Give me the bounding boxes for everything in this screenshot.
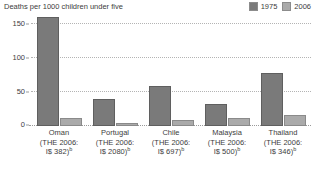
plot-area	[31, 17, 311, 126]
x-label-thailand-amount: I$ 346)b	[255, 147, 311, 157]
x-label-thailand-the: (THE 2006:	[255, 138, 311, 148]
bar-group-thailand	[255, 17, 311, 126]
bar-groups	[31, 17, 311, 126]
y-tick-150	[26, 24, 29, 25]
x-label-malaysia-amount-text: I$ 500)	[214, 147, 237, 156]
x-label-chile-amount: I$ 697)b	[143, 147, 199, 157]
bar-group-malaysia	[199, 17, 255, 126]
x-axis-labels: Oman (THE 2006: I$ 382)b Portugal (THE 2…	[31, 128, 311, 177]
bar-chile-1975[interactable]	[149, 86, 171, 126]
legend-item-2006[interactable]: 2006	[282, 2, 311, 11]
y-axis: 150 100 50 0	[0, 17, 29, 126]
bar-chile-2006[interactable]	[172, 120, 194, 126]
legend-swatch-1975	[249, 2, 258, 11]
legend-item-1975[interactable]: 1975	[249, 2, 278, 11]
x-label-oman-name: Oman	[31, 128, 87, 138]
x-label-portugal-the: (THE 2006:	[87, 138, 143, 148]
x-label-malaysia: Malaysia (THE 2006: I$ 500)b	[199, 128, 255, 177]
x-label-chile-amount-text: I$ 697)	[158, 147, 181, 156]
bar-thailand-2006[interactable]	[284, 115, 306, 126]
x-label-thailand-name: Thailand	[255, 128, 311, 138]
bar-portugal-2006[interactable]	[116, 123, 138, 126]
x-label-oman-footnote: b	[69, 146, 72, 152]
legend-swatch-2006	[282, 2, 291, 11]
x-label-chile-name: Chile	[143, 128, 199, 138]
bar-oman-1975[interactable]	[37, 17, 59, 126]
chart-title: Deaths per 1000 children under five	[4, 2, 123, 11]
x-label-thailand-amount-text: I$ 346)	[270, 147, 293, 156]
x-label-portugal-amount-text: I$ 2080)	[100, 147, 128, 156]
x-label-thailand: Thailand (THE 2006: I$ 346)b	[255, 128, 311, 177]
y-axis-label-50: 50	[17, 88, 25, 96]
x-label-malaysia-footnote: b	[237, 146, 240, 152]
x-label-malaysia-name: Malaysia	[199, 128, 255, 138]
y-tick-100	[26, 58, 29, 59]
x-label-malaysia-amount: I$ 500)b	[199, 147, 255, 157]
legend-label-1975: 1975	[261, 2, 278, 11]
bar-group-oman	[31, 17, 87, 126]
chart-container: Deaths per 1000 children under five 1975…	[0, 0, 315, 177]
x-label-chile-the: (THE 2006:	[143, 138, 199, 148]
bar-group-chile	[143, 17, 199, 126]
x-label-oman: Oman (THE 2006: I$ 382)b	[31, 128, 87, 177]
x-label-oman-amount: I$ 382)b	[31, 147, 87, 157]
bar-oman-2006[interactable]	[60, 118, 82, 126]
bar-malaysia-2006[interactable]	[228, 118, 250, 126]
x-label-malaysia-the: (THE 2006:	[199, 138, 255, 148]
y-axis-label-150: 150	[12, 20, 25, 28]
x-label-oman-amount-text: I$ 382)	[46, 147, 69, 156]
bar-group-portugal	[87, 17, 143, 126]
x-label-portugal-name: Portugal	[87, 128, 143, 138]
chart-legend: 1975 2006	[249, 2, 311, 11]
x-label-chile: Chile (THE 2006: I$ 697)b	[143, 128, 199, 177]
bar-thailand-1975[interactable]	[261, 73, 283, 126]
x-label-chile-footnote: b	[181, 146, 184, 152]
x-label-oman-the: (THE 2006:	[31, 138, 87, 148]
bar-portugal-1975[interactable]	[93, 99, 115, 126]
y-axis-label-100: 100	[12, 54, 25, 62]
x-label-portugal-amount: I$ 2080)b	[87, 147, 143, 157]
x-label-portugal: Portugal (THE 2006: I$ 2080)b	[87, 128, 143, 177]
bar-malaysia-1975[interactable]	[205, 104, 227, 126]
y-axis-label-0: 0	[21, 121, 25, 129]
x-label-thailand-footnote: b	[293, 146, 296, 152]
x-label-portugal-footnote: b	[127, 146, 130, 152]
legend-label-2006: 2006	[294, 2, 311, 11]
y-tick-50	[26, 92, 29, 93]
